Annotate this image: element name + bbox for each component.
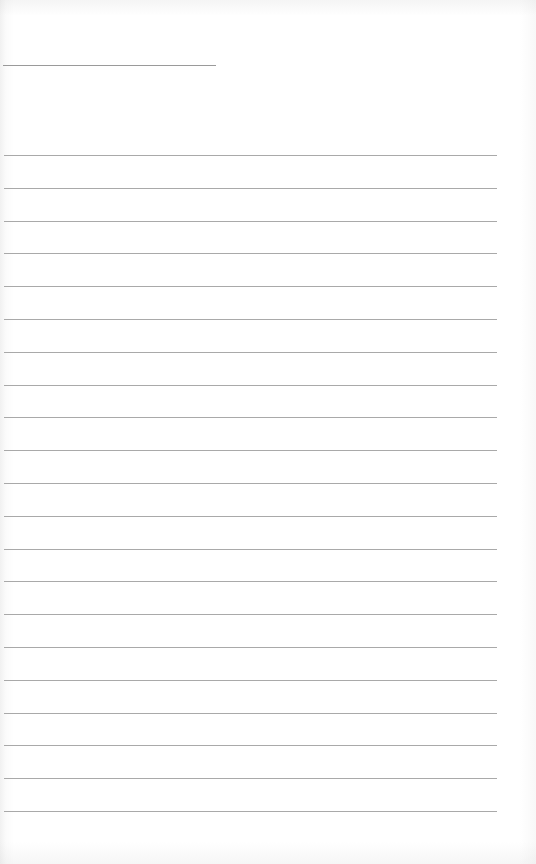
ruled-line (4, 516, 497, 517)
ruled-line (4, 253, 497, 254)
ruled-line (4, 450, 497, 451)
bleed-through-top (0, 0, 536, 16)
bleed-through-bottom (0, 842, 536, 864)
ruled-line (4, 614, 497, 615)
title-line (3, 65, 216, 66)
notebook-page (0, 0, 536, 864)
ruled-line (4, 319, 497, 320)
ruled-line (4, 811, 497, 812)
ruled-line (4, 713, 497, 714)
ruled-line (4, 680, 497, 681)
ruled-line (4, 286, 497, 287)
ruled-line (4, 221, 497, 222)
ruled-line (4, 188, 497, 189)
ruled-line (4, 385, 497, 386)
ruled-line (4, 417, 497, 418)
ruled-line (4, 647, 497, 648)
ruled-line (4, 745, 497, 746)
ruled-line (4, 778, 497, 779)
ruled-line (4, 155, 497, 156)
ruled-line (4, 483, 497, 484)
ruled-line (4, 549, 497, 550)
ruled-line (4, 352, 497, 353)
ruled-line (4, 581, 497, 582)
